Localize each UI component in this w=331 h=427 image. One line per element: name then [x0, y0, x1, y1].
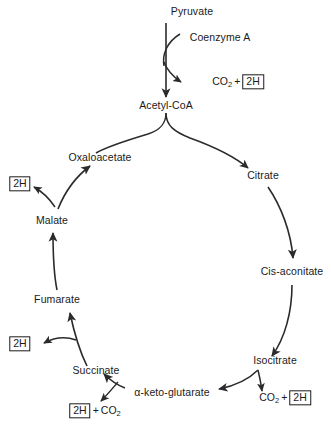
boxed-2h-succinate: 2H	[9, 336, 30, 351]
arrow-acetylcoa-to-citrate	[166, 113, 248, 168]
arrow-citrate-to-cisaconitate	[268, 187, 293, 258]
boxed-2h-pyruvate: 2H	[242, 74, 263, 89]
plus-sign-isocitrate: +	[281, 392, 287, 403]
node-label-coenzyme-a: Coenzyme A	[190, 32, 251, 43]
byproduct-succinate-2h: 2H	[9, 336, 30, 351]
byproduct-malate-2h: 2H	[9, 176, 30, 191]
node-label-citrate: Citrate	[247, 170, 279, 181]
arrow-fumarate-to-malate	[53, 233, 57, 290]
arrow-isocitrate-to-ketoglutarate	[219, 370, 258, 389]
co2-text-ketoglutarate: CO2	[101, 405, 121, 416]
boxed-2h-isocitrate: 2H	[289, 390, 310, 405]
krebs-cycle-diagram: Pyruvate Coenzyme A CO2 + 2H Acetyl-CoA …	[0, 0, 331, 427]
node-label-fumarate: Fumarate	[34, 294, 80, 305]
byproduct-isocitrate-co2-2h: CO2 + 2H	[259, 390, 311, 405]
byproduct-ketoglutarate-2h-co2: 2H + CO2	[69, 403, 121, 418]
arrow-malate-to-2h	[34, 187, 55, 207]
co2-text: CO2	[212, 76, 232, 87]
boxed-2h-malate: 2H	[9, 176, 30, 191]
byproduct-pyruvate-co2-2h: CO2 + 2H	[212, 74, 264, 89]
node-label-pyruvate: Pyruvate	[171, 6, 213, 17]
arrow-acetylcoa-to-oxaloacetate	[96, 113, 166, 153]
arrow-isocitrate-to-co2-2h	[258, 370, 262, 391]
plus-sign: +	[234, 76, 240, 87]
co2-text-isocitrate: CO2	[259, 392, 279, 403]
boxed-2h-ketoglutarate: 2H	[69, 403, 90, 418]
arrow-cisaconitate-to-isocitrate	[272, 285, 292, 356]
node-label-malate: Malate	[36, 215, 68, 226]
arrow-ketoglutarate-to-2h-co2	[101, 382, 118, 401]
node-label-oxaloacetate: Oxaloacetate	[68, 152, 131, 163]
node-label-acetyl-coa: Acetyl-CoA	[139, 100, 193, 111]
node-label-succinate: Succinate	[72, 365, 119, 376]
node-label-alpha-keto-glutarate: α-keto-glutarate	[134, 387, 209, 398]
arrow-succinate-to-2h	[44, 338, 76, 343]
plus-sign-ketoglutarate: +	[93, 405, 99, 416]
node-label-cis-aconitate: Cis-aconitate	[261, 266, 324, 277]
arrow-malate-to-oxaloacetate	[58, 166, 90, 209]
node-label-isocitrate: Isocitrate	[253, 355, 297, 366]
